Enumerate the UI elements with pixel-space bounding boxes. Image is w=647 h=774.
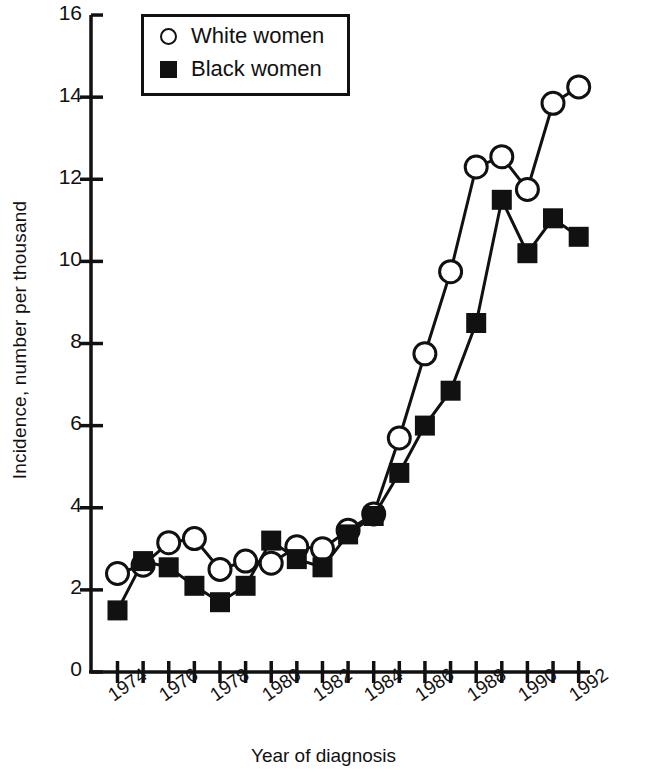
chart-figure: Incidence, number per thousand 16 14 12 … bbox=[0, 0, 647, 774]
data-point-black-women-1983 bbox=[338, 524, 358, 544]
data-point-white-women-1990 bbox=[516, 179, 538, 201]
series-markers bbox=[107, 76, 590, 621]
data-point-white-women-1974 bbox=[107, 563, 129, 585]
data-point-white-women-1980 bbox=[260, 552, 282, 574]
data-point-black-women-1978 bbox=[210, 592, 230, 612]
legend-item-white-women: White women bbox=[160, 25, 324, 47]
data-point-black-women-1975 bbox=[133, 551, 153, 571]
legend-label-white-women: White women bbox=[191, 25, 324, 47]
series-line-black-women bbox=[118, 200, 579, 611]
data-point-black-women-1980 bbox=[261, 531, 281, 551]
open-circle-icon bbox=[160, 28, 177, 45]
data-point-white-women-1976 bbox=[158, 532, 180, 554]
data-point-black-women-1976 bbox=[159, 557, 179, 577]
data-point-black-women-1984 bbox=[364, 506, 384, 526]
data-point-black-women-1992 bbox=[569, 227, 589, 247]
data-point-black-women-1989 bbox=[492, 190, 512, 210]
data-point-black-women-1990 bbox=[517, 243, 537, 263]
legend: White women Black women bbox=[141, 14, 350, 96]
data-point-white-women-1987 bbox=[440, 261, 462, 283]
data-point-white-women-1992 bbox=[568, 76, 590, 98]
filled-square-icon bbox=[160, 61, 177, 78]
data-point-white-women-1977 bbox=[183, 528, 205, 550]
data-point-white-women-1991 bbox=[542, 92, 564, 114]
data-point-black-women-1981 bbox=[287, 549, 307, 569]
data-point-white-women-1985 bbox=[388, 427, 410, 449]
data-point-white-women-1988 bbox=[465, 156, 487, 178]
data-point-black-women-1985 bbox=[389, 463, 409, 483]
data-point-black-women-1987 bbox=[441, 381, 461, 401]
plot-area bbox=[0, 0, 647, 774]
data-point-black-women-1979 bbox=[236, 576, 256, 596]
legend-item-black-women: Black women bbox=[160, 58, 322, 80]
data-point-white-women-1982 bbox=[312, 538, 334, 560]
data-point-white-women-1989 bbox=[491, 146, 513, 168]
data-point-black-women-1974 bbox=[108, 600, 128, 620]
data-point-white-women-1979 bbox=[235, 550, 257, 572]
data-point-black-women-1986 bbox=[415, 416, 435, 436]
x-axis-title: Year of diagnosis bbox=[0, 745, 647, 767]
data-point-black-women-1977 bbox=[184, 576, 204, 596]
data-point-black-women-1991 bbox=[543, 208, 563, 228]
data-point-white-women-1986 bbox=[414, 343, 436, 365]
data-point-black-women-1988 bbox=[466, 313, 486, 333]
data-point-white-women-1978 bbox=[209, 558, 231, 580]
legend-label-black-women: Black women bbox=[191, 58, 322, 80]
data-point-black-women-1982 bbox=[313, 557, 333, 577]
